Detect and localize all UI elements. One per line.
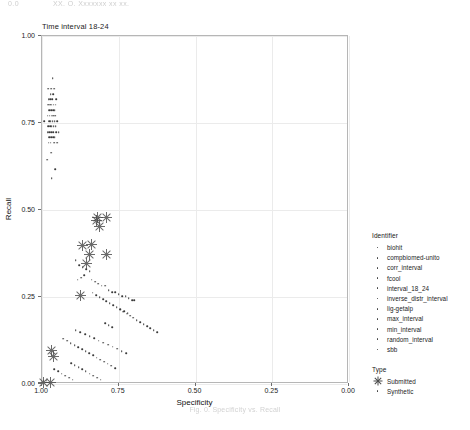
data-point-synthetic — [115, 291, 117, 293]
data-point-synthetic — [107, 363, 109, 365]
scatter-figure: Time interval 18-24 0.000.250.500.751.00… — [0, 10, 470, 410]
data-point-synthetic — [101, 285, 103, 287]
data-point-synthetic — [55, 126, 57, 128]
legend-item-label: min_interval — [387, 326, 422, 333]
data-point-synthetic — [98, 283, 100, 285]
data-point-submitted — [100, 248, 113, 261]
data-point-synthetic — [58, 131, 60, 133]
data-point-synthetic — [74, 344, 76, 346]
data-point-synthetic — [107, 344, 109, 346]
legend-item-label: lig-getalp — [387, 305, 413, 312]
data-point-synthetic — [96, 357, 98, 359]
legend-item[interactable]: corr_interval — [372, 263, 466, 273]
data-point-synthetic — [50, 142, 52, 144]
figure-page: 0.0 XX. O. Xxxxxxx xx xx. Time interval … — [0, 0, 470, 430]
data-point-synthetic — [128, 298, 130, 300]
data-point-synthetic — [85, 350, 87, 352]
data-point-synthetic — [50, 93, 52, 95]
data-point-synthetic — [91, 279, 93, 281]
legend-item[interactable]: max_interval — [372, 314, 466, 324]
data-point-synthetic — [89, 373, 91, 375]
gridline-horizontal — [42, 123, 347, 124]
data-point-synthetic — [111, 365, 113, 367]
legend-star-icon — [372, 376, 383, 387]
data-point-synthetic — [75, 260, 77, 262]
legend-dot-icon — [372, 308, 383, 310]
y-axis-tick-mark — [38, 296, 41, 297]
legend-dot-icon — [372, 298, 383, 300]
data-point-synthetic — [127, 313, 129, 315]
data-point-synthetic — [95, 294, 97, 296]
data-point-synthetic — [57, 120, 59, 122]
data-point-synthetic — [65, 375, 67, 377]
data-point-synthetic — [51, 177, 53, 179]
gridline-horizontal — [42, 297, 347, 298]
y-axis-tick-label: 0.00 — [21, 380, 35, 387]
data-point-synthetic — [156, 332, 158, 334]
gridline-horizontal — [42, 36, 347, 37]
data-point-synthetic — [50, 120, 52, 122]
data-point-synthetic — [126, 352, 128, 354]
data-point-synthetic — [50, 88, 52, 90]
legend-item[interactable]: min_interval — [372, 324, 466, 334]
legend-dot-icon — [372, 390, 383, 392]
legend-item-label: interval_18_24 — [387, 285, 429, 292]
data-point-synthetic — [48, 99, 50, 101]
data-point-synthetic — [75, 329, 77, 331]
x-axis-tick-mark — [348, 383, 349, 386]
data-point-synthetic — [93, 338, 95, 340]
gridline-vertical — [42, 36, 43, 382]
y-axis-tick-label: 0.25 — [21, 293, 35, 300]
legend-title: Type — [372, 366, 466, 373]
legend-item[interactable]: interval_18_24 — [372, 283, 466, 293]
legend-item[interactable]: inverse_distr_interval — [372, 293, 466, 303]
data-point-synthetic — [129, 315, 131, 317]
legend-dot-icon — [372, 257, 383, 259]
data-point-synthetic — [74, 364, 76, 366]
data-point-synthetic — [80, 277, 82, 279]
data-point-synthetic — [103, 361, 105, 363]
data-point-synthetic — [53, 126, 55, 128]
gridline-vertical — [272, 36, 273, 382]
data-point-synthetic — [123, 310, 125, 312]
data-point-synthetic — [112, 346, 114, 348]
data-point-synthetic — [94, 281, 96, 283]
data-point-synthetic — [70, 342, 72, 344]
figure-caption: Fig. 0. Specificity vs. Recall — [0, 406, 470, 413]
data-point-synthetic — [99, 296, 101, 298]
legend-item-label: Submitted — [387, 378, 416, 385]
legend-item-label: biohit — [387, 244, 402, 251]
data-point-synthetic — [150, 328, 152, 330]
data-point-synthetic — [52, 120, 54, 122]
data-point-synthetic — [47, 131, 49, 133]
legend-item[interactable]: random_interval — [372, 334, 466, 344]
data-point-synthetic — [50, 109, 52, 111]
legend-dot-icon — [372, 318, 383, 320]
legend-item[interactable]: compbiomed-unito — [372, 253, 466, 263]
data-point-synthetic — [47, 88, 49, 90]
data-point-synthetic — [61, 373, 63, 375]
legend-item[interactable]: biohit — [372, 243, 466, 253]
legend-item-label: sbb — [387, 346, 397, 353]
data-point-synthetic — [44, 120, 46, 122]
data-point-synthetic — [106, 300, 108, 302]
data-point-synthetic — [96, 377, 98, 379]
x-axis-tick-mark — [271, 383, 272, 386]
y-axis-tick-mark — [38, 209, 41, 210]
legend-item[interactable]: lig-getalp — [372, 304, 466, 314]
legend-item[interactable]: fcool — [372, 273, 466, 283]
legend-item[interactable]: Synthetic — [372, 386, 466, 396]
x-axis-tick-label: 0.00 — [341, 387, 355, 394]
legend-item[interactable]: Submitted — [372, 376, 466, 386]
data-point-synthetic — [53, 369, 55, 371]
data-point-synthetic — [116, 307, 118, 309]
data-point-synthetic — [49, 115, 51, 117]
legend-dot-icon — [372, 267, 383, 269]
data-point-synthetic — [77, 279, 79, 281]
legend-item[interactable]: sbb — [372, 344, 466, 354]
data-point-synthetic — [119, 308, 121, 310]
data-point-synthetic — [153, 330, 155, 332]
y-axis-tick-label: 0.50 — [21, 206, 35, 213]
data-point-submitted — [74, 289, 87, 302]
data-point-synthetic — [77, 346, 79, 348]
